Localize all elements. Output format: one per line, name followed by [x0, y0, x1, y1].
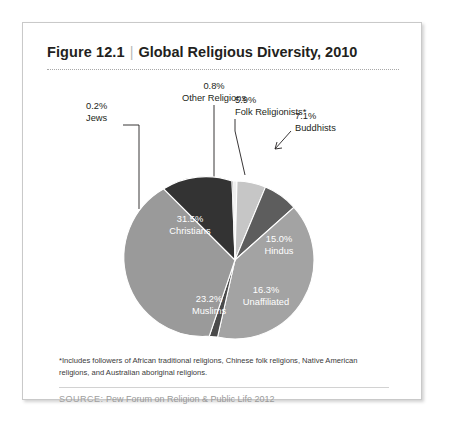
- figure-footnote: *Includes followers of African tradition…: [59, 355, 389, 379]
- label-christians-name: Christians: [169, 226, 211, 236]
- label-muslims-name: Muslims: [192, 306, 226, 316]
- label-muslims-value: 23.2%: [196, 294, 222, 304]
- label-other-religions-value: 0.8%: [203, 81, 224, 91]
- title-separator: |: [125, 44, 139, 60]
- label-jews-value: 0.2%: [86, 101, 107, 111]
- label-folk-religionists-value: 5.9%: [235, 95, 256, 105]
- leader-buddhists: [275, 131, 291, 149]
- page-title: Global Religious Diversity, 2010: [138, 44, 357, 60]
- source-text: Pew Forum on Religion & Public Life 2012: [106, 394, 275, 404]
- label-jews-name: Jews: [86, 113, 108, 123]
- pie-chart: 0.8% Other Religions 0.2% Jews 5.9% Folk…: [23, 79, 421, 339]
- figure-container: Figure 12.1|Global Religious Diversity, …: [22, 22, 422, 400]
- source-divider: [59, 387, 389, 388]
- label-unaffiliated-value: 16.3%: [253, 285, 279, 295]
- source-keyword: SOURCE:: [59, 394, 104, 404]
- figure-number: Figure 12.1: [47, 44, 125, 60]
- leader-folk-religionists: [235, 119, 245, 175]
- label-hindus-value: 15.0%: [266, 234, 292, 244]
- title-divider: [47, 69, 399, 70]
- label-hindus-name: Hindus: [265, 246, 294, 256]
- label-buddhists-value: 7.1%: [295, 111, 316, 121]
- label-buddhists-name: Buddhists: [295, 123, 336, 133]
- label-christians-value: 31.5%: [177, 214, 203, 224]
- leader-jews: [123, 125, 139, 209]
- figure-source: SOURCE: Pew Forum on Religion & Public L…: [59, 394, 275, 404]
- figure-title-row: Figure 12.1|Global Religious Diversity, …: [47, 44, 357, 60]
- label-unaffiliated-name: Unaffiliated: [243, 297, 289, 307]
- pie-chart-svg: 0.8% Other Religions 0.2% Jews 5.9% Folk…: [23, 79, 421, 339]
